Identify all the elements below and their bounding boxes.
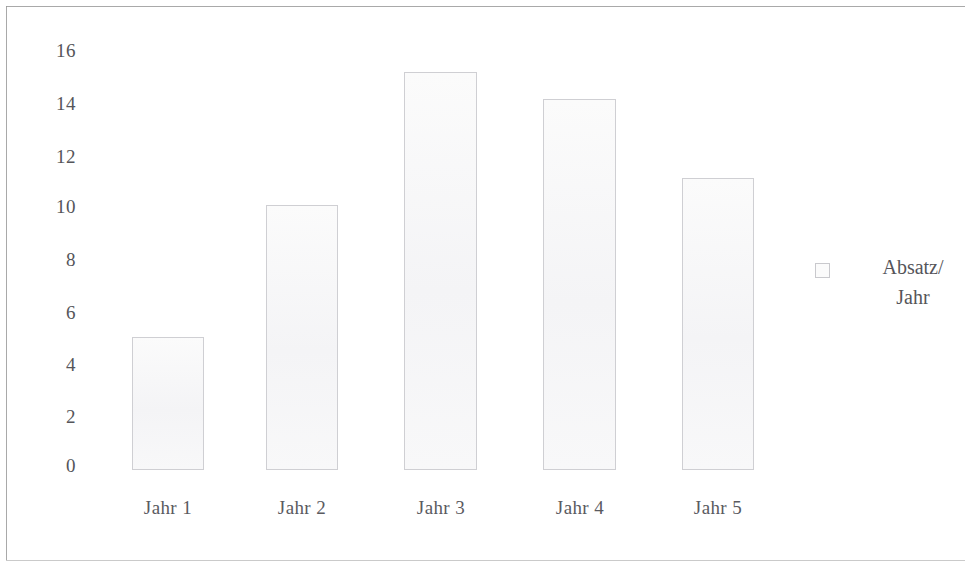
bar-jahr-1[interactable] [132,337,204,470]
legend-label-line-2: Jahr [860,282,966,312]
y-tick-label: 16 [30,41,76,60]
legend-label-absatz-jahr: Absatz/ Jahr [860,252,966,312]
chart-page: 16 14 12 10 8 6 4 2 0 Jahr 1 Jahr 2 Ja [0,0,974,570]
legend: Absatz/ Jahr [806,250,966,320]
bar-jahr-3[interactable] [404,72,477,470]
y-tick-label: 8 [30,250,76,269]
y-tick-label: 10 [30,197,76,216]
legend-label-line-1: Absatz/ [860,252,966,282]
bar-jahr-5[interactable] [682,178,754,470]
x-tick-label-jahr-4: Jahr 4 [520,498,640,518]
y-tick-label: 14 [30,94,76,113]
x-tick-label-jahr-1: Jahr 1 [108,498,228,518]
plot-area: 16 14 12 10 8 6 4 2 0 Jahr 1 Jahr 2 Ja [0,0,974,570]
y-tick-label: 0 [30,456,76,475]
x-tick-label-jahr-2: Jahr 2 [242,498,362,518]
y-tick-label: 12 [30,147,76,166]
x-tick-label-jahr-5: Jahr 5 [658,498,778,518]
bar-fill [544,100,615,469]
bar-jahr-4[interactable] [543,99,616,470]
y-axis: 16 14 12 10 8 6 4 2 0 [30,0,76,570]
y-tick-label: 2 [30,407,76,426]
bar-jahr-2[interactable] [266,205,338,470]
bar-fill [133,338,203,469]
bar-fill [405,73,476,469]
legend-swatch-absatz-jahr[interactable] [815,263,830,278]
y-tick-label: 4 [30,355,76,374]
x-tick-label-jahr-3: Jahr 3 [381,498,501,518]
y-tick-label: 6 [30,303,76,322]
bar-fill [267,206,337,469]
bar-fill [683,179,753,469]
